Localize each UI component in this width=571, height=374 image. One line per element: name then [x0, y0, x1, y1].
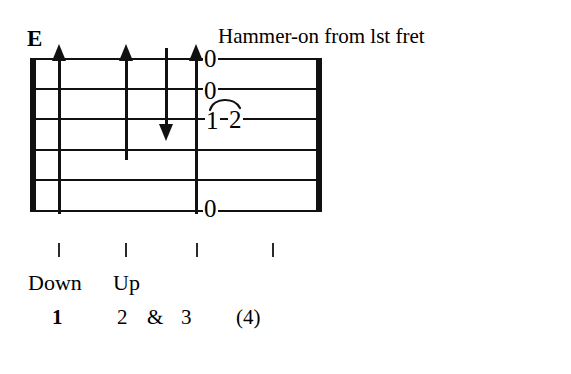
beat-tick-2: [125, 243, 127, 257]
count-beat-3: 3: [181, 307, 192, 328]
string-line-1: [30, 58, 322, 60]
count-beat-1: 1: [52, 307, 63, 328]
string-line-6: [30, 210, 322, 212]
beat-tick-3: [196, 243, 198, 257]
beat-tick-1: [58, 243, 60, 257]
string-line-2: [30, 88, 322, 90]
count-beat-2: 2: [117, 307, 128, 328]
stroke-direction-down-label: Down: [28, 272, 82, 294]
chord-label: E: [27, 27, 43, 50]
arrow-head-down-icon: [159, 124, 173, 141]
arrow-shaft: [125, 56, 128, 160]
arrow-shaft: [195, 56, 198, 214]
string-line-5: [30, 179, 322, 181]
staff-bar-right: [316, 58, 322, 212]
fret-number-string-1: 0: [203, 46, 218, 71]
guitar-tab-figure: E Hammer-on from lst fret 0 0 1 2: [0, 0, 571, 374]
beat-tick-4: [272, 243, 274, 257]
arrow-shaft: [58, 56, 61, 214]
staff-bar-left: [30, 58, 36, 212]
count-beat-and: &: [147, 307, 163, 328]
arrow-shaft: [165, 48, 168, 126]
instruction-caption: Hammer-on from lst fret: [218, 26, 425, 47]
fret-number-string-6: 0: [203, 196, 218, 221]
count-beat-4: (4): [236, 307, 261, 328]
stroke-direction-up-label: Up: [113, 272, 140, 294]
string-line-4: [30, 149, 322, 151]
string-line-3: [30, 118, 322, 120]
hammer-on-slur-icon: [209, 96, 243, 112]
tab-staff: [30, 58, 322, 212]
